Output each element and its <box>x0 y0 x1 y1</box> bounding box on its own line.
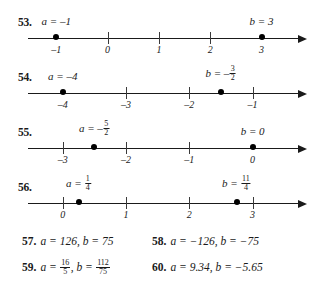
exercise-body: a = 165, b = 11275 <box>40 261 110 273</box>
point-label-b: b = 3 <box>250 16 274 27</box>
axis-arrow-icon <box>298 145 307 153</box>
plotted-point-b <box>218 89 224 95</box>
fraction-denominator: 4 <box>85 183 91 192</box>
axis-tick-label: –3 <box>121 99 131 110</box>
point-label-b: b = 0 <box>241 126 265 137</box>
text-exercise-row: 59.a = 165, b = 1127560.a = 9.34, b = −5… <box>0 254 316 280</box>
axis-tick-label: –2 <box>121 154 131 165</box>
numberline-exercise-53: 53.–10123a = –1b = 3 <box>0 8 316 63</box>
plotted-point-a <box>60 89 66 95</box>
text-exercise-60: 60.a = 9.34, b = −5.65 <box>152 254 263 280</box>
axis-tick <box>126 142 127 154</box>
axis-tick <box>63 197 64 209</box>
fraction-denominator: 75 <box>96 267 110 276</box>
axis-tick-label: 3 <box>259 44 264 55</box>
axis-tick <box>126 197 127 209</box>
fraction: 52 <box>103 120 109 138</box>
text-exercise-grid: 57.a = 126, b = 7558.a = −126, b = −7559… <box>0 228 316 280</box>
plotted-point-b <box>250 144 256 150</box>
axis-tick <box>108 32 109 44</box>
axis-tick-label: –1 <box>184 154 194 165</box>
axis-tick <box>253 87 254 99</box>
text-exercise-58: 58.a = −126, b = −75 <box>152 228 259 254</box>
fraction-denominator: 2 <box>230 73 236 82</box>
fraction: 114 <box>241 175 251 193</box>
fraction: 14 <box>85 175 91 193</box>
plotted-point-a <box>91 144 97 150</box>
fraction-numerator: 112 <box>96 259 110 267</box>
exercise-number: 54. <box>18 71 32 83</box>
fraction-denominator: 2 <box>103 128 109 137</box>
plotted-point-b <box>234 199 240 205</box>
fraction: 11275 <box>96 259 110 277</box>
exercise-body: a = −126, b = −75 <box>170 235 259 247</box>
axis-tick-label: –4 <box>58 99 68 110</box>
plotted-point-b <box>259 34 265 40</box>
axis-tick <box>210 32 211 44</box>
axis-tick <box>189 87 190 99</box>
axis-tick-label: –1 <box>51 44 61 55</box>
exercise-number: 55. <box>18 126 32 138</box>
exercise-number: 57. <box>22 235 36 247</box>
axis-tick-label: 3 <box>250 209 255 220</box>
fraction-numerator: 5 <box>103 120 109 128</box>
exercise-number: 60. <box>152 261 166 273</box>
axis-tick <box>159 32 160 44</box>
fraction-numerator: 3 <box>230 65 236 73</box>
axis-tick <box>189 197 190 209</box>
fraction: 32 <box>230 65 236 83</box>
numberline-exercise-55: 55.–3–2–10a = –52b = 0 <box>0 118 316 173</box>
exercise-body: a = 126, b = 75 <box>40 235 113 247</box>
fraction: 165 <box>60 259 70 277</box>
axis-arrow-icon <box>298 90 307 98</box>
axis-tick-label: 0 <box>105 44 110 55</box>
exercise-number: 58. <box>152 235 166 247</box>
axis-tick-label: 0 <box>250 154 255 165</box>
text-exercise-57: 57.a = 126, b = 75 <box>22 228 113 254</box>
axis-tick-label: 1 <box>124 209 129 220</box>
point-label-b: b = –32 <box>205 65 236 83</box>
axis-tick-label: 2 <box>187 209 192 220</box>
text-exercise-row: 57.a = 126, b = 7558.a = −126, b = −75 <box>0 228 316 254</box>
fraction-numerator: 11 <box>241 175 251 183</box>
number-line-axis <box>28 93 300 94</box>
plotted-point-a <box>76 199 82 205</box>
exercise-number: 59. <box>22 261 36 273</box>
axis-tick <box>189 142 190 154</box>
number-line-axis <box>28 148 300 149</box>
point-label-a: a = –1 <box>41 16 70 27</box>
axis-tick-label: 2 <box>208 44 213 55</box>
exercise-body: a = 9.34, b = −5.65 <box>170 261 262 273</box>
exercise-number: 56. <box>18 181 32 193</box>
axis-tick-label: –3 <box>58 154 68 165</box>
fraction-numerator: 1 <box>85 175 91 183</box>
point-label-b: b = 114 <box>222 175 251 193</box>
axis-tick-label: 1 <box>156 44 161 55</box>
plotted-point-a <box>53 34 59 40</box>
number-line-axis <box>28 203 300 204</box>
axis-arrow-icon <box>298 35 307 43</box>
axis-tick-label: 0 <box>60 209 65 220</box>
exercise-number: 53. <box>18 16 32 28</box>
point-label-a: a = –52 <box>79 120 110 138</box>
fraction-denominator: 4 <box>241 183 251 192</box>
point-label-a: a = –4 <box>48 71 77 82</box>
axis-tick-label: –2 <box>184 99 194 110</box>
numberline-exercise-56: 56.0123a = 14b = 114 <box>0 173 316 228</box>
axis-arrow-icon <box>298 200 307 208</box>
axis-tick <box>126 87 127 99</box>
axis-tick-label: –1 <box>248 99 258 110</box>
point-label-a: a = 14 <box>66 175 91 193</box>
axis-tick <box>63 142 64 154</box>
numberline-exercise-54: 54.–4–3–2–1a = –4b = –32 <box>0 63 316 118</box>
text-exercise-59: 59.a = 165, b = 11275 <box>22 254 110 280</box>
fraction-numerator: 16 <box>60 259 70 267</box>
axis-tick <box>253 197 254 209</box>
fraction-denominator: 5 <box>60 267 70 276</box>
